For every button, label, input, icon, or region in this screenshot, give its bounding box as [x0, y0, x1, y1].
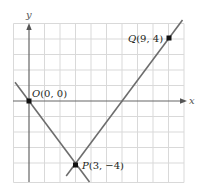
point-labels: O(0, 0) P(3, −4) Q(9, 4)	[32, 33, 163, 171]
coordinate-graph: x y O(0, 0) P(3, −4) Q(9, 4)	[0, 0, 201, 190]
x-axis-label: x	[189, 95, 195, 106]
y-axis-arrow-icon	[26, 23, 31, 30]
grid	[14, 24, 185, 183]
label-point-Q: Q(9, 4)	[128, 33, 163, 44]
point-O	[27, 99, 32, 104]
line-PQ	[66, 20, 182, 176]
label-point-P: P(3, −4)	[81, 160, 124, 171]
axes	[13, 23, 187, 182]
point-Q	[167, 36, 172, 41]
point-P	[73, 163, 78, 168]
y-axis-label: y	[25, 9, 32, 20]
label-point-O: O(0, 0)	[32, 88, 67, 99]
